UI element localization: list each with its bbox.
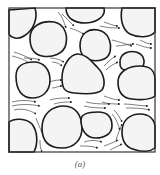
streamline-arrow <box>100 26 120 28</box>
porous-media-diagram <box>0 0 160 175</box>
streamline-arrow <box>50 80 62 82</box>
streamline-arrow <box>106 62 118 70</box>
grain-bottom-center <box>42 106 82 148</box>
streamline-arrow <box>40 140 42 152</box>
streamline-arrow <box>50 58 64 62</box>
grain-top-center <box>66 8 104 23</box>
streamline-arrow <box>70 28 84 34</box>
streamline-arrow <box>50 98 70 100</box>
grain-bottom-right <box>122 114 155 151</box>
grain-left-mid <box>16 62 50 98</box>
streamline-arrow <box>54 102 72 104</box>
figure-caption: (a) <box>0 159 160 169</box>
streamline-arrow <box>12 101 36 103</box>
streamline-arrow <box>124 104 148 106</box>
streamline-arrow <box>12 105 40 107</box>
streamline-arrow <box>80 146 98 148</box>
streamline-arrow <box>52 86 62 88</box>
streamline-arrow <box>110 144 122 150</box>
grains-group <box>9 8 155 152</box>
grain-right-mid <box>118 66 155 100</box>
streamline-arrow <box>36 118 42 132</box>
streamline-arrow <box>52 62 62 66</box>
grain-bottom-center-right <box>81 112 112 138</box>
streamline-arrow <box>112 40 132 46</box>
streamline-arrow <box>126 108 150 110</box>
streamline-arrow <box>14 52 32 60</box>
streamline-arrow <box>114 110 122 122</box>
streamline-arrow <box>104 96 120 100</box>
streamline-arrow <box>84 106 106 108</box>
streamline-arrow <box>104 22 118 26</box>
streamline-arrow <box>136 44 152 48</box>
streamline-arrow <box>84 141 102 143</box>
streamline-arrow <box>140 40 152 44</box>
streamline-arrow <box>104 140 118 146</box>
grain-upper-left <box>30 22 67 57</box>
grain-bottom-left <box>9 119 37 152</box>
streamline-arrow <box>14 109 36 114</box>
grain-top-right <box>121 8 155 37</box>
